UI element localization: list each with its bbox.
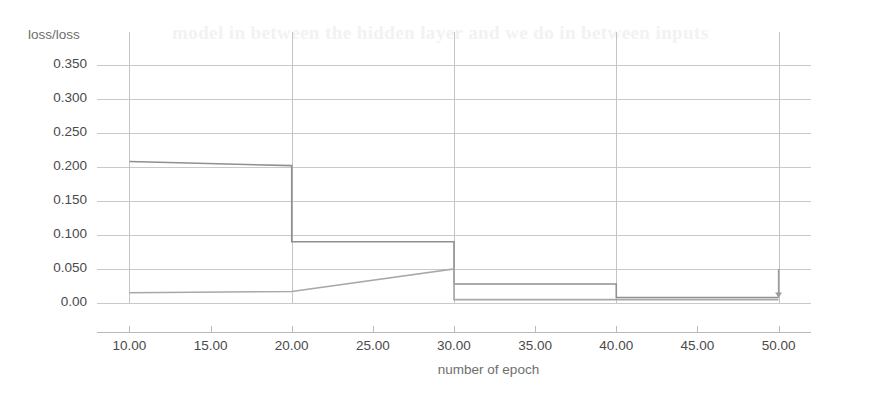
y-tick-label: 0.100 [25,226,87,241]
y-axis-title: loss/loss [28,27,80,42]
x-tick-mark [211,326,212,333]
x-tick-label: 20.00 [257,338,327,353]
y-tick-label: 0.00 [25,294,87,309]
y-tick-label: 0.300 [25,90,87,105]
y-tick-label: 0.250 [25,124,87,139]
x-tick-label: 45.00 [662,338,732,353]
gridline-horizontal [97,303,811,304]
y-tick-label: 0.150 [25,192,87,207]
series-layer [97,48,811,303]
x-tick-mark [616,326,617,333]
chart-figure: model in between the hidden layer and we… [0,0,893,405]
x-tick-label: 50.00 [744,338,814,353]
x-tick-label: 40.00 [581,338,651,353]
x-tick-mark [454,326,455,333]
plot-area [97,48,811,303]
x-tick-mark [129,326,130,333]
x-tick-mark [373,326,374,333]
x-tick-mark [697,326,698,333]
x-tick-mark [779,326,780,333]
background-bleed-text: model in between the hidden layer and we… [172,22,709,44]
y-tick-label: 0.350 [25,56,87,71]
x-tick-label: 15.00 [176,338,246,353]
x-tick-label: 30.00 [419,338,489,353]
series-line [129,269,778,300]
x-tick-mark [535,326,536,333]
x-tick-mark [292,326,293,333]
x-tick-label: 25.00 [338,338,408,353]
x-axis-title: number of epoch [0,362,893,377]
y-tick-label: 0.050 [25,260,87,275]
x-tick-label: 10.00 [94,338,164,353]
x-tick-label: 35.00 [500,338,570,353]
x-axis-title-text: number of epoch [438,362,539,377]
y-tick-label: 0.200 [25,158,87,173]
